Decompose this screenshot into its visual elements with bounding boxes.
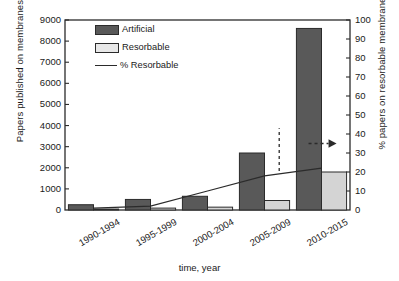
bar-artificial-2000-2004	[182, 196, 207, 210]
legend-item-artificial: Artificial	[95, 22, 178, 37]
chart-figure: Papers published on membranes in TE % pa…	[0, 0, 399, 281]
legend-swatch-artificial-icon	[95, 25, 119, 35]
bar-resorbable-2010-2015	[322, 172, 347, 210]
plot-area	[0, 0, 399, 281]
legend-label-percent-resorbable: % Resorbable	[120, 61, 178, 70]
legend-swatch-resorbable-icon	[95, 43, 119, 53]
legend-item-resorbable: Resorbable	[95, 40, 178, 55]
bar-artificial-2010-2015	[296, 28, 321, 210]
legend-line-percent-resorbable-icon	[95, 65, 117, 66]
bar-resorbable-2005-2009	[265, 201, 290, 211]
chart-legend: Artificial Resorbable % Resorbable	[95, 22, 178, 76]
bar-artificial-1995-1999	[125, 199, 150, 210]
dashed-arrow-head-icon	[329, 139, 337, 147]
legend-label-resorbable: Resorbable	[122, 43, 170, 52]
bar-resorbable-1990-1994	[94, 209, 119, 210]
legend-item-percent-resorbable: % Resorbable	[95, 58, 178, 73]
bar-resorbable-2000-2004	[208, 207, 233, 210]
bar-resorbable-1995-1999	[151, 208, 176, 210]
bar-artificial-1990-1994	[68, 205, 93, 210]
legend-label-artificial: Artificial	[122, 25, 155, 34]
